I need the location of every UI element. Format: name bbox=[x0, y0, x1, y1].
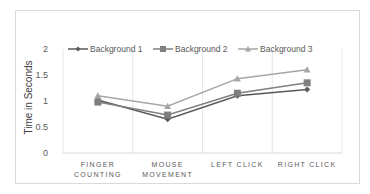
y-tick-label: 0.5 bbox=[35, 122, 48, 132]
x-tick-label: MOVEMENT bbox=[142, 171, 193, 178]
diamond-marker bbox=[76, 47, 81, 52]
y-tick-label: 1.5 bbox=[35, 70, 48, 80]
square-marker bbox=[304, 79, 311, 86]
line-chart: 00.511.52FINGERCOUNTINGMOUSEMOVEMENTLEFT… bbox=[0, 0, 370, 194]
legend-label: Background 2 bbox=[175, 44, 228, 54]
square-marker bbox=[164, 112, 171, 119]
legend-label: Background 1 bbox=[90, 44, 143, 54]
x-tick-label: LEFT CLICK bbox=[211, 161, 264, 168]
legend-label: Background 3 bbox=[260, 44, 313, 54]
x-tick-label: COUNTING bbox=[74, 171, 122, 178]
x-tick-label: RIGHT CLICK bbox=[278, 161, 337, 168]
x-tick-label: FINGER bbox=[81, 161, 115, 168]
square-marker bbox=[234, 90, 241, 97]
x-tick-label: MOUSE bbox=[152, 161, 184, 168]
y-tick-label: 0 bbox=[43, 148, 48, 158]
square-marker bbox=[160, 46, 166, 52]
square-marker bbox=[94, 99, 101, 106]
y-tick-label: 1 bbox=[43, 96, 48, 106]
y-tick-label: 2 bbox=[43, 44, 48, 54]
diamond-marker bbox=[304, 87, 310, 93]
